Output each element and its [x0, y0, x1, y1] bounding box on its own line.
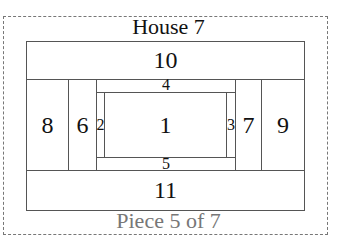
piece-7-label: 7	[243, 112, 255, 139]
piece-11-label: 11	[154, 177, 177, 204]
piece-6: 6	[68, 79, 97, 171]
piece-10-label: 10	[154, 47, 178, 74]
piece-9-label: 9	[277, 112, 289, 139]
piece-1: 1	[104, 92, 227, 158]
piece-5-label: 5	[162, 157, 170, 171]
piece-8: 8	[26, 79, 69, 171]
piece-7: 7	[235, 79, 262, 171]
piece-10: 10	[26, 41, 305, 80]
piece-11: 11	[26, 170, 305, 211]
piece-4-label: 4	[162, 78, 170, 92]
piece-5: 5	[96, 157, 236, 171]
piece-8-label: 8	[42, 112, 54, 139]
piece-counter: Piece 5 of 7	[0, 208, 337, 234]
piece-3: 3	[226, 92, 236, 158]
piece-6-label: 6	[77, 112, 89, 139]
piece-1-label: 1	[160, 112, 172, 139]
house-title: House 7	[0, 15, 337, 39]
piece-9: 9	[261, 79, 305, 171]
piece-3-label: 3	[227, 116, 235, 134]
piece-4: 4	[96, 79, 236, 93]
